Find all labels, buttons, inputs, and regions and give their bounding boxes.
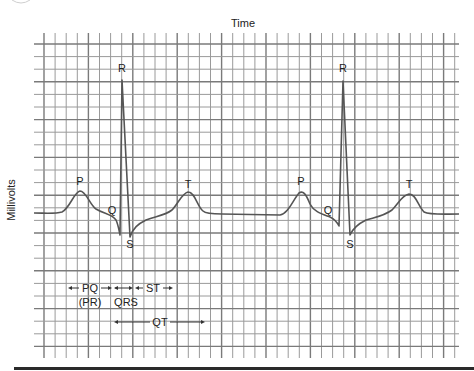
bottom-rule [14,367,474,370]
wave-label-t: T [406,178,413,190]
qt-label: QT [152,316,168,328]
st-label: ST [146,282,160,294]
pq-label: PQ [82,282,98,294]
wave-label-q: Q [324,204,333,216]
st-arrowhead-right [169,286,173,290]
wave-label-s: S [126,238,133,250]
qrs-arrowhead-left [114,286,118,290]
ecg-grid [34,33,459,358]
wave-label-r: R [118,62,126,74]
wave-label-p: P [297,175,304,187]
wave-label-q: Q [108,204,117,216]
wave-label-r: R [339,62,347,74]
y-axis-label: Millivolts [5,179,17,221]
st-arrowhead-left [135,286,139,290]
pq-arrowhead-right [108,286,112,290]
corner-arc-artifact [12,0,30,3]
ecg-trace [34,80,459,237]
pr-label: (PR) [79,296,102,308]
pq-arrowhead-left [68,286,72,290]
ecg-diagram: Time Millivolts PQRSTPQRST PQ ST (PR) QR… [0,0,474,371]
qt-arrowhead-left [114,320,118,324]
wave-label-s: S [346,238,353,250]
x-axis-title: Time [231,17,255,29]
wave-label-p: P [76,175,83,187]
qrs-label: QRS [114,296,138,308]
qt-arrowhead-right [201,320,205,324]
wave-label-t: T [185,178,192,190]
